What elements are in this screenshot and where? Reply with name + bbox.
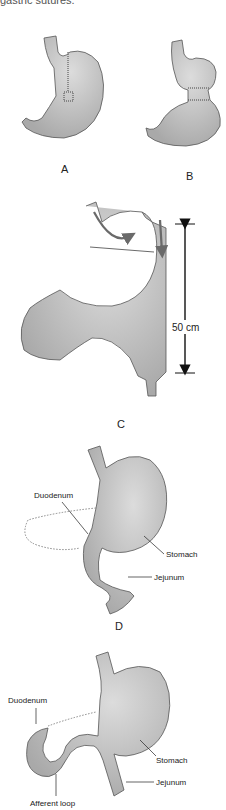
panel-b: B <box>146 40 220 182</box>
panel-c: 50 cm C <box>21 202 200 430</box>
panel-d-letter: D <box>115 620 123 632</box>
label-duodenum-d: Duodenum <box>34 491 73 500</box>
panel-c-letter: C <box>117 418 125 430</box>
panel-b-letter: B <box>186 170 193 182</box>
label-stomach-d: Stomach <box>166 550 198 559</box>
label-jejunum-d: Jejunum <box>154 573 185 582</box>
gastric-surgery-diagram: A B 50 cm C Duodenum Stomach Jejunum D <box>0 0 226 810</box>
panel-a-letter: A <box>61 163 69 175</box>
panel-e: Duodenum Stomach Jejunum Afferent loop <box>8 652 188 808</box>
label-stomach-e: Stomach <box>156 756 188 765</box>
label-duodenum-e: Duodenum <box>8 696 47 705</box>
label-jejunum-e: Jejunum <box>156 778 187 787</box>
panel-d: Duodenum Stomach Jejunum D <box>25 446 198 632</box>
panel-a: A <box>22 36 104 175</box>
label-afferent-loop: Afferent loop <box>30 799 76 808</box>
length-label: 50 cm <box>172 322 199 333</box>
